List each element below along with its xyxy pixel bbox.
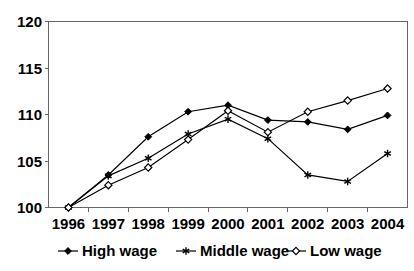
marker-filled-diamond-0-5 (264, 117, 271, 124)
marker-open-diamond-2-8 (384, 85, 391, 92)
x-tick-label: 1998 (132, 215, 165, 232)
chart-canvas: 120 115 110 105 100 19961997199819992000… (0, 0, 414, 271)
legend-label: Low wage (310, 242, 382, 259)
marker-open-diamond-legend-2 (292, 247, 299, 254)
chart-legend: High wageMiddle wageLow wage (58, 242, 382, 259)
marker-filled-diamond-0-7 (344, 126, 351, 133)
marker-filled-diamond-0-3 (185, 108, 192, 115)
x-tick-label: 2000 (211, 215, 244, 232)
marker-filled-diamond-legend-0 (65, 248, 72, 255)
y-tick-label: 105 (17, 153, 42, 170)
marker-open-diamond-2-1 (105, 182, 112, 189)
y-tick-label: 115 (18, 60, 42, 77)
y-tick-label: 100 (17, 199, 42, 216)
y-tick-label: 110 (18, 106, 42, 123)
y-tick-label: 120 (17, 13, 42, 30)
legend-label: High wage (82, 242, 157, 259)
marker-filled-diamond-0-6 (304, 119, 311, 126)
marker-asterisk-1-2 (145, 154, 152, 162)
marker-open-diamond-2-5 (264, 129, 271, 136)
marker-asterisk-1-4 (225, 115, 232, 123)
x-tick-label: 1996 (52, 215, 85, 232)
x-axis-labels: 199619971998199920002001200220032004 (52, 215, 405, 232)
marker-asterisk-1-8 (384, 150, 391, 158)
series-middle-wage (65, 115, 391, 211)
x-tick-label: 1997 (92, 215, 125, 232)
y-axis-ticks (45, 22, 49, 208)
x-tick-label: 2004 (371, 215, 405, 232)
x-tick-label: 1999 (171, 215, 204, 232)
x-tick-label: 2002 (291, 215, 324, 232)
series-line (68, 119, 387, 207)
data-series-group (65, 85, 391, 211)
y-axis-labels: 120 115 110 105 100 (17, 13, 42, 216)
legend-item-low-wage[interactable]: Low wage (286, 242, 382, 259)
marker-filled-diamond-0-8 (384, 112, 391, 119)
marker-open-diamond-2-6 (304, 108, 311, 115)
legend-item-high-wage[interactable]: High wage (58, 242, 157, 259)
legend-label: Middle wage (200, 242, 289, 259)
x-tick-label: 2001 (251, 215, 284, 232)
marker-open-diamond-2-7 (344, 97, 351, 104)
marker-open-diamond-2-2 (145, 164, 152, 171)
line-chart: 120 115 110 105 100 19961997199819992000… (0, 0, 414, 271)
x-tick-label: 2003 (331, 215, 364, 232)
x-axis-ticks (88, 208, 367, 212)
legend-item-middle-wage[interactable]: Middle wage (176, 242, 289, 259)
